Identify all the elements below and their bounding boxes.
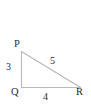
vertex-label-r: R (76, 87, 83, 97)
side-length-label-qr: 4 (43, 92, 48, 102)
triangle-figure: P Q R 3 4 5 (0, 0, 91, 110)
side-length-label-pr: 5 (50, 56, 55, 66)
vertex-label-q: Q (11, 87, 19, 97)
side-length-label-pq: 3 (6, 62, 11, 72)
vertex-label-p: P (14, 39, 20, 49)
